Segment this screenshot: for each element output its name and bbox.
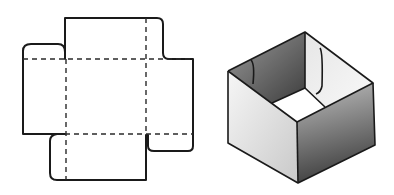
diagram-stage bbox=[0, 0, 394, 195]
assembled-box bbox=[228, 32, 375, 183]
box-diagram bbox=[0, 0, 394, 195]
net-outline bbox=[23, 18, 193, 180]
box-net bbox=[23, 18, 193, 180]
front-vertical-edge bbox=[297, 122, 298, 183]
